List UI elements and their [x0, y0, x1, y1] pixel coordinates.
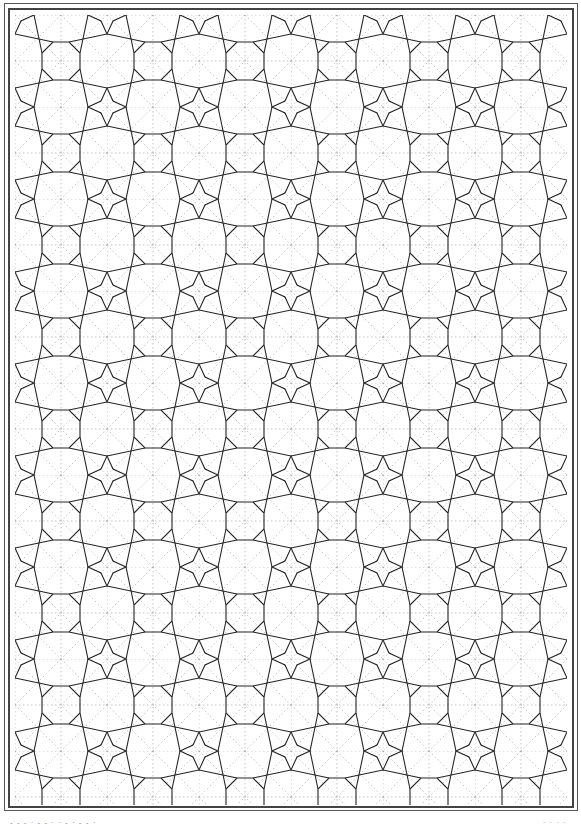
pattern-artwork	[15, 15, 567, 805]
footer-caption: - - - · - - · · - · - - ·	[10, 818, 96, 827]
footer-page-number: · · · ·	[543, 818, 567, 827]
